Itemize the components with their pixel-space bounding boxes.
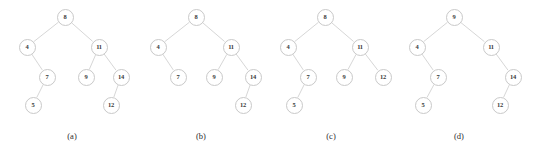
- tree-node: 7: [300, 69, 317, 86]
- panel-caption-1: (a): [67, 131, 76, 141]
- tree-node: 8: [188, 9, 205, 26]
- tree-node: 11: [352, 39, 369, 56]
- tree-node: 5: [25, 97, 42, 114]
- tree-edge: [202, 23, 224, 42]
- tree-node: 9: [336, 69, 353, 86]
- panel-caption-3: (c): [326, 131, 335, 141]
- tree-node: 7: [170, 69, 187, 86]
- tree-node: 4: [280, 39, 297, 56]
- tree-edge: [114, 85, 118, 97]
- tree-edge: [246, 85, 250, 97]
- tree-edge: [71, 23, 92, 42]
- tree-node: 4: [409, 39, 426, 56]
- tree-node: 14: [505, 69, 522, 86]
- tree-node: 14: [113, 69, 130, 86]
- tree-edge: [34, 22, 59, 41]
- tree-edge: [496, 54, 508, 70]
- tree-node: 9: [206, 69, 223, 86]
- tree-node: 4: [150, 39, 167, 56]
- tree-edge: [104, 54, 116, 70]
- tree-edge: [298, 85, 304, 98]
- tree-node: 8: [57, 9, 74, 26]
- tree-node: 4: [19, 39, 36, 56]
- tree-edge: [422, 54, 433, 70]
- tree-edge: [365, 54, 378, 71]
- tree-edge: [218, 54, 227, 69]
- tree-edge: [37, 85, 43, 98]
- tree-edge: [236, 54, 248, 70]
- tree-edge: [165, 22, 190, 41]
- tree-node: 12: [235, 97, 252, 114]
- tree-node: 11: [91, 39, 108, 56]
- tree-edge: [504, 85, 510, 98]
- tree-node: 5: [286, 97, 303, 114]
- tree-node: 9: [446, 9, 463, 26]
- tree-node: 14: [245, 69, 262, 86]
- tree-edge: [295, 22, 319, 41]
- tree-node: 5: [415, 97, 432, 114]
- tree-edge: [461, 22, 485, 41]
- binary-tree-figure: 8411791451284117914128411791259411714512…: [0, 0, 539, 151]
- tree-node: 8: [317, 9, 334, 26]
- tree-node: 11: [223, 39, 240, 56]
- tree-node: 12: [492, 97, 509, 114]
- tree-edge: [348, 55, 356, 70]
- tree-edge: [89, 55, 95, 69]
- tree-edge: [32, 54, 43, 70]
- panel-caption-2: (b): [196, 131, 206, 141]
- tree-node: 7: [430, 69, 447, 86]
- tree-node: 7: [39, 69, 56, 86]
- tree-node: 12: [103, 97, 120, 114]
- tree-node: 12: [375, 69, 392, 86]
- tree-edge: [427, 84, 434, 97]
- tree-edge: [163, 54, 174, 70]
- tree-node: 11: [483, 39, 500, 56]
- tree-edge: [424, 22, 448, 41]
- tree-node: 9: [78, 69, 95, 86]
- tree-edge: [293, 54, 304, 70]
- panel-caption-4: (d): [454, 131, 464, 141]
- tree-edge: [331, 23, 353, 42]
